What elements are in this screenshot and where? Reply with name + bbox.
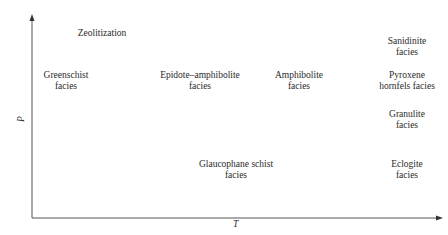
facies-label-line: facies xyxy=(160,81,240,92)
facies-label-line: facies xyxy=(389,120,425,131)
facies-label-line: Greenschist xyxy=(44,70,89,81)
y-axis-arrow-icon xyxy=(30,14,35,21)
facies-label-epidote-amphibolite: Epidote–amphibolitefacies xyxy=(160,70,240,92)
y-axis-label: P xyxy=(16,116,26,122)
facies-label-line: Amphibolite xyxy=(275,70,323,81)
facies-label-line: facies xyxy=(275,81,323,92)
x-axis-label: T xyxy=(233,219,238,229)
facies-label-line: facies xyxy=(199,170,273,181)
x-axis-arrow-icon xyxy=(436,216,443,221)
axes xyxy=(0,0,448,235)
facies-label-granulite: Granulitefacies xyxy=(389,109,425,131)
facies-label-line: Epidote–amphibolite xyxy=(160,70,240,81)
facies-label-line: Granulite xyxy=(389,109,425,120)
facies-label-sanidinite: Sanidinitefacies xyxy=(388,36,427,58)
facies-label-line: Sanidinite xyxy=(388,36,427,47)
facies-label-line: facies xyxy=(388,47,427,58)
facies-label-greenschist: Greenschistfacies xyxy=(44,70,89,92)
facies-label-pyroxene-hornfels: Pyroxenehornfels facies xyxy=(379,70,435,92)
facies-label-eclogite: Eclogitefacies xyxy=(391,159,423,181)
facies-label-line: Glaucophane schist xyxy=(199,159,273,170)
facies-label-zeolitization: Zeolitization xyxy=(78,28,127,39)
facies-label-line: Zeolitization xyxy=(78,28,127,39)
facies-label-line: hornfels facies xyxy=(379,81,435,92)
facies-label-line: facies xyxy=(44,81,89,92)
facies-label-glaucophane-schist: Glaucophane schistfacies xyxy=(199,159,273,181)
facies-label-line: facies xyxy=(391,170,423,181)
facies-label-line: Eclogite xyxy=(391,159,423,170)
facies-label-line: Pyroxene xyxy=(379,70,435,81)
facies-label-amphibolite: Amphibolitefacies xyxy=(275,70,323,92)
